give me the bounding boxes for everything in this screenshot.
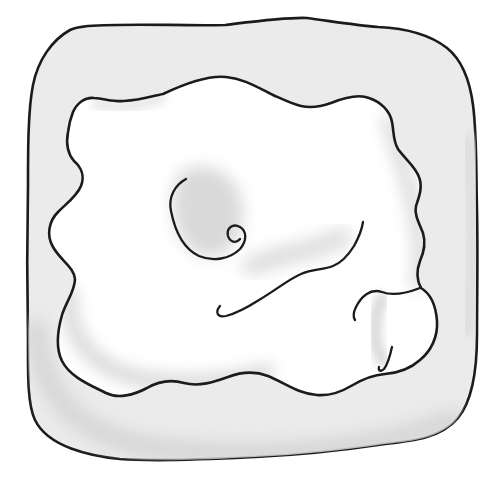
slab-doodle-illustration: [0, 0, 501, 485]
ring-shadow-right: [468, 140, 473, 330]
illustration-stage: [0, 0, 501, 485]
